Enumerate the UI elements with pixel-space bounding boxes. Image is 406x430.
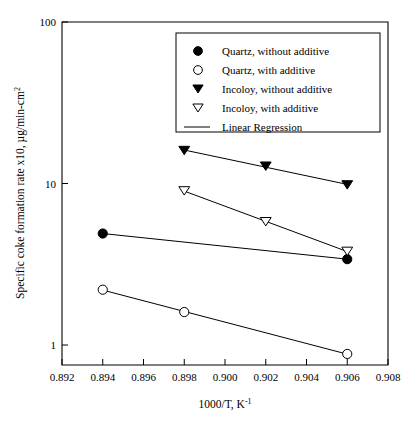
- x-tick-label: 0.906: [335, 371, 360, 383]
- x-axis-title: 1000/T, K-1: [198, 397, 251, 411]
- x-axis-ticks: 0.8920.8940.8960.8980.9000.9020.9040.906…: [50, 359, 401, 383]
- series-regression-lines: [103, 150, 348, 354]
- x-axis-title-text: 1000/T, K: [198, 398, 245, 411]
- marker-filled-triangle: [342, 181, 353, 189]
- y-tick-label: 100: [40, 16, 57, 28]
- x-tick-label: 0.900: [213, 371, 238, 383]
- chart-canvas: 110100 0.8920.8940.8960.8980.9000.9020.9…: [0, 0, 406, 430]
- x-tick-label: 0.904: [294, 371, 319, 383]
- marker-open-circle: [194, 66, 203, 75]
- y-axis-title: Specific coke formation rate x10, µg/min…: [13, 87, 27, 299]
- svg-text:1000/T, K-1: 1000/T, K-1: [198, 397, 251, 411]
- legend-entry-label: Linear Regression: [222, 121, 303, 133]
- marker-open-circle: [180, 307, 189, 316]
- x-tick-label: 0.896: [131, 371, 156, 383]
- legend: Quartz, without additiveQuartz, with add…: [176, 33, 380, 133]
- marker-open-triangle: [179, 187, 190, 195]
- y-tick-label: 10: [45, 178, 57, 190]
- y-axis-title-exponent: 2: [13, 87, 22, 91]
- marker-open-circle: [343, 349, 352, 358]
- x-tick-label: 0.894: [90, 371, 115, 383]
- regression-line: [103, 234, 348, 260]
- marker-open-triangle: [342, 247, 353, 255]
- chart-figure: 110100 0.8920.8940.8960.8980.9000.9020.9…: [0, 0, 406, 430]
- x-axis-title-exponent: -1: [245, 397, 252, 406]
- marker-filled-circle: [194, 47, 203, 56]
- y-axis-ticks: 110100: [40, 16, 69, 351]
- marker-filled-circle: [98, 229, 107, 238]
- marker-open-circle: [98, 285, 107, 294]
- x-tick-label: 0.898: [172, 371, 197, 383]
- y-tick-label: 1: [51, 339, 57, 351]
- x-tick-label: 0.908: [376, 371, 401, 383]
- legend-entry-label: Incoloy, without additive: [222, 83, 332, 95]
- series-markers: [98, 146, 353, 358]
- svg-text:Specific coke formation rate x: Specific coke formation rate x10, µg/min…: [13, 87, 27, 299]
- legend-entry-label: Incoloy, with additive: [222, 102, 318, 114]
- x-tick-label: 0.892: [50, 371, 75, 383]
- regression-line: [103, 290, 348, 354]
- legend-entry-label: Quartz, with additive: [222, 64, 315, 76]
- x-tick-label: 0.902: [253, 371, 278, 383]
- y-axis-title-text: Specific coke formation rate x10, µg/min…: [14, 91, 27, 299]
- marker-open-triangle: [260, 218, 271, 226]
- legend-entry-label: Quartz, without additive: [222, 45, 329, 57]
